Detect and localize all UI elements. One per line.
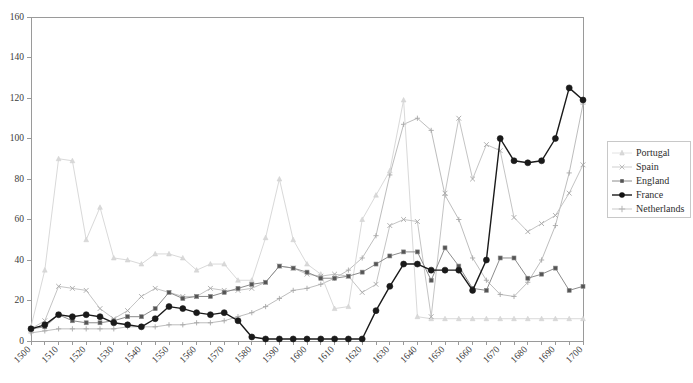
chart-container: 0204060801001201401601500151015201530154… [0, 0, 693, 383]
data-point-marker [180, 306, 186, 312]
x-tick-label: 1670 [481, 344, 502, 365]
legend-label-england: England [633, 175, 669, 187]
data-point-marker [552, 136, 558, 142]
series-france [28, 85, 586, 342]
data-point-marker [539, 257, 544, 262]
data-point-marker [208, 294, 212, 298]
y-tick-label: 20 [15, 295, 25, 305]
data-point-marker [277, 264, 281, 268]
legend-label-france: France [633, 189, 663, 201]
data-point-marker [318, 282, 323, 287]
legend-label-spain: Spain [633, 161, 659, 173]
data-point-marker [181, 296, 185, 300]
data-point-marker [195, 294, 199, 298]
data-point-marker [456, 217, 461, 222]
data-point-marker [511, 158, 517, 164]
data-point-marker [97, 326, 102, 331]
data-point-marker [194, 310, 200, 316]
legend-label-netherlands: Netherlands [633, 203, 684, 215]
data-point-marker [208, 320, 213, 325]
data-point-marker [167, 290, 171, 294]
data-point-marker [512, 256, 516, 260]
data-point-marker [153, 307, 157, 311]
data-point-marker [319, 276, 323, 280]
x-tick-label: 1600 [288, 344, 309, 365]
y-tick-label: 40 [15, 255, 25, 265]
data-point-marker [553, 213, 558, 218]
data-point-marker [497, 136, 503, 142]
x-tick-label: 1610 [316, 344, 337, 365]
data-point-marker [388, 254, 392, 258]
x-tick-label: 1700 [564, 344, 585, 365]
data-point-marker [539, 221, 544, 226]
x-tick-label: 1650 [426, 344, 447, 365]
data-point-marker [277, 176, 282, 181]
x-tick-label: 1690 [536, 344, 557, 365]
data-point-marker [429, 278, 433, 282]
y-tick-label: 0 [19, 336, 24, 346]
data-point-marker [333, 276, 337, 280]
data-point-marker [42, 268, 47, 273]
legend-marker-square-icon [611, 175, 633, 187]
x-tick-label: 1580 [233, 344, 254, 365]
legend-item-spain[interactable]: Spain [611, 160, 687, 174]
data-point-marker [567, 170, 572, 175]
data-point-marker [290, 336, 296, 342]
legend-marker-cross-light-icon [611, 161, 633, 173]
data-point-marker [69, 314, 75, 320]
data-point-marker [567, 288, 571, 292]
data-point-marker [222, 290, 226, 294]
data-point-marker [249, 334, 255, 340]
legend-item-netherlands[interactable]: Netherlands [611, 202, 687, 216]
data-point-marker [70, 326, 75, 331]
legend-item-england[interactable]: England [611, 174, 687, 188]
data-point-marker [263, 336, 269, 342]
y-tick-label: 60 [15, 214, 25, 224]
data-point-marker [236, 286, 240, 290]
data-point-marker [56, 156, 61, 161]
data-point-marker [483, 257, 489, 263]
data-point-marker [98, 205, 103, 210]
y-tick-label: 140 [10, 52, 25, 62]
data-point-marker [28, 326, 34, 332]
x-tick-label: 1630 [371, 344, 392, 365]
data-point-marker [56, 326, 61, 331]
data-point-marker [318, 336, 324, 342]
data-point-marker [415, 250, 419, 254]
data-point-marker [540, 272, 544, 276]
data-point-marker [359, 336, 365, 342]
data-point-marker [139, 294, 144, 299]
x-tick-label: 1510 [40, 344, 61, 365]
data-point-marker [360, 270, 364, 274]
data-point-marker [305, 261, 310, 266]
data-point-marker [235, 318, 241, 324]
data-point-marker [484, 142, 489, 147]
x-tick-label: 1500 [12, 344, 33, 365]
data-point-marker [111, 326, 116, 331]
data-point-marker [139, 315, 143, 319]
data-point-marker [125, 308, 130, 313]
legend-item-portugal[interactable]: Portugal [611, 146, 687, 160]
data-point-marker [207, 312, 213, 318]
data-point-marker [276, 336, 282, 342]
data-point-marker [153, 324, 158, 329]
x-tick-label: 1530 [95, 344, 116, 365]
data-point-marker [111, 320, 117, 326]
data-point-marker [84, 326, 89, 331]
data-point-marker [415, 314, 420, 319]
data-point-marker [305, 270, 309, 274]
data-point-marker [484, 288, 488, 292]
data-point-marker [250, 282, 254, 286]
data-point-marker [263, 235, 268, 240]
data-point-marker [277, 296, 282, 301]
data-point-marker [249, 310, 254, 315]
legend-item-france[interactable]: France [611, 188, 687, 202]
series-spain [29, 116, 586, 331]
data-point-marker [553, 266, 557, 270]
data-point-marker [442, 267, 448, 273]
legend-label-portugal: Portugal [633, 147, 670, 159]
data-point-marker [414, 261, 420, 267]
x-tick-label: 1590 [260, 344, 281, 365]
x-tick-label: 1540 [122, 344, 143, 365]
data-point-marker [428, 267, 434, 273]
